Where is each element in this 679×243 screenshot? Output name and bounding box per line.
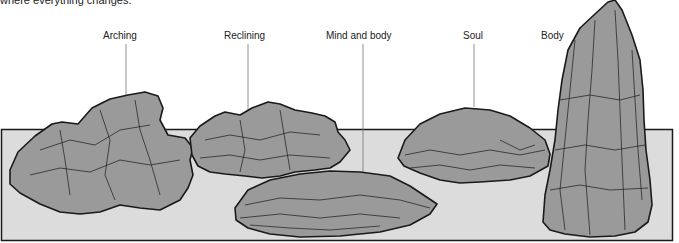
rock-arrangement-illustration [0,0,679,243]
rock-body [543,0,652,237]
rock-reclining [190,102,350,178]
rock-arching [10,92,193,214]
rock-soul [398,108,550,183]
